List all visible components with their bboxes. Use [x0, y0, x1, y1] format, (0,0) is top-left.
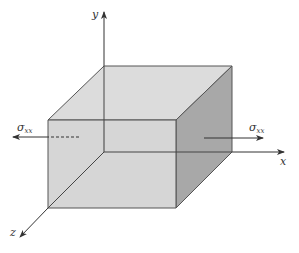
- front-face: [48, 120, 176, 208]
- z-axis-label: z: [10, 227, 16, 238]
- x-axis-label: x: [280, 156, 286, 167]
- y-axis-label: y: [92, 9, 98, 20]
- stress-label-left: σxx: [17, 122, 32, 135]
- z-axis: [20, 208, 48, 237]
- stress-block-diagram: y x z σxx σxx: [0, 0, 299, 253]
- stress-label-right: σxx: [249, 122, 264, 135]
